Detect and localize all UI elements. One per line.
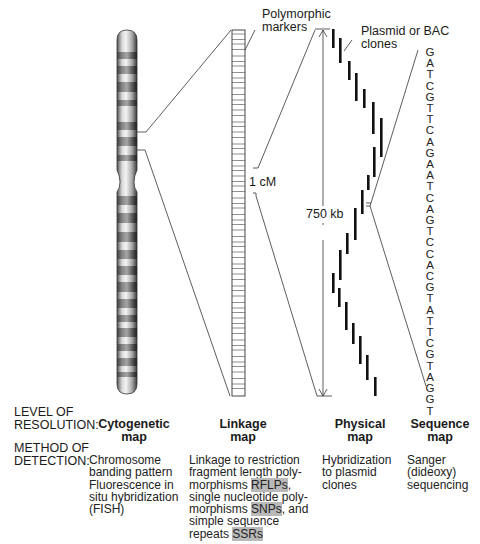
dna-sequence: GATCGTTCAGAATCAGTCCACGTATTCGTAGGT — [423, 47, 437, 417]
method-line: banding pattern — [89, 466, 178, 478]
nucleotide: C — [423, 237, 437, 248]
method-line: (dideoxy) — [407, 466, 468, 478]
nucleotide: T — [423, 293, 437, 304]
sequence-map-title: Sequence map — [405, 418, 475, 444]
nucleotide: T — [423, 181, 437, 192]
text-span: , and — [282, 502, 309, 516]
nucleotide: T — [423, 69, 437, 80]
method-line: to plasmid — [322, 466, 391, 478]
method-line: (FISH) — [89, 503, 178, 515]
cytogenetic-method: Chromosome banding pattern Fluorescence … — [89, 454, 178, 515]
label-line: markers — [262, 21, 331, 34]
ssrs-highlight: SSRs — [232, 527, 263, 541]
cytogenetic-map-title: Cytogenetic map — [94, 418, 174, 444]
chromosome-icon — [115, 30, 139, 394]
label-line: DETECTION: — [14, 455, 90, 468]
zoom-connector-lines — [137, 30, 231, 396]
kb-750-label: 750 kb — [306, 206, 344, 223]
linkage-map-title: Linkage map — [218, 418, 268, 444]
level-of-resolution-label: LEVEL OF RESOLUTION: — [14, 406, 99, 432]
linkage-method: Linkage to restriction fragment length p… — [189, 454, 308, 540]
physical-map-title: Physical map — [330, 418, 390, 444]
method-of-detection-label: METHOD OF DETECTION: — [14, 442, 90, 468]
one-cm-label: 1 cM — [249, 176, 276, 189]
title-line: map — [94, 431, 174, 444]
method-line: sequencing — [407, 479, 468, 491]
polymorphic-markers-label: Polymorphic markers — [262, 8, 331, 34]
clones-pointer — [344, 40, 352, 51]
nucleotide: C — [423, 125, 437, 136]
sequence-bracket — [366, 50, 426, 386]
label-line: RESOLUTION: — [14, 419, 99, 432]
title-line: map — [218, 431, 268, 444]
physical-method: Hybridization to plasmid clones — [322, 454, 391, 491]
text-span: repeats — [189, 527, 232, 541]
markers-pointer — [245, 30, 255, 50]
nucleotide: G — [423, 394, 437, 405]
method-line: repeats SSRs — [189, 528, 308, 540]
title-line: map — [405, 431, 475, 444]
nucleotide: G — [423, 349, 437, 360]
linkage-map-ladder — [232, 30, 245, 396]
method-line: clones — [322, 479, 391, 491]
sequence-method: Sanger (dideoxy) sequencing — [407, 454, 468, 491]
title-line: map — [330, 431, 390, 444]
nucleotide: T — [423, 406, 437, 417]
